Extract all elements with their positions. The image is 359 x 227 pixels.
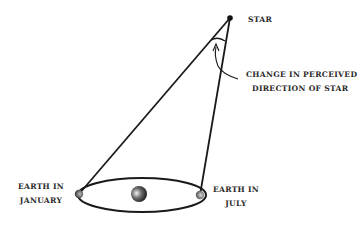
earth-july-label-line1: EARTH IN — [213, 185, 259, 194]
parallax-angle-arc — [211, 38, 225, 41]
annotation-pointer — [215, 47, 238, 79]
earth-january-label-line2: JANUARY — [19, 196, 63, 205]
annotation-label-line1: CHANGE IN PERCEIVED — [246, 70, 357, 79]
star-label: STAR — [248, 15, 273, 24]
sight-line-july — [200, 18, 230, 195]
sight-line-january — [79, 18, 230, 194]
earth-july-label-line2: JULY — [224, 199, 247, 208]
earth-july-icon — [196, 191, 204, 199]
star-icon — [227, 15, 233, 21]
annotation-label-line2: DIRECTION OF STAR — [252, 84, 349, 93]
earth-january-label-line1: EARTH IN — [18, 182, 64, 191]
parallax-diagram: STAR CHANGE IN PERCEIVED DIRECTION OF ST… — [0, 0, 359, 227]
sun-icon — [131, 186, 147, 202]
earth-january-icon — [75, 190, 83, 198]
